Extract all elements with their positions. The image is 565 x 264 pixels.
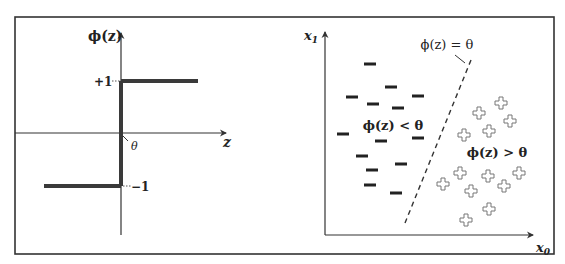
x0-axis-label: x0 (535, 240, 551, 257)
decision-boundary-plot: x1 x0 ϕ(z) = θ ϕ(z) < θ ϕ(z) > θ (303, 28, 551, 257)
theta-pointer (123, 136, 128, 141)
figure-frame (15, 17, 554, 254)
perceptron-diagram: ϕ(z) z θ +1 −1 x1 x0 ϕ(z) = θ ϕ(z) < θ ϕ… (0, 0, 565, 264)
minus-marker (367, 103, 379, 106)
plus-marker (482, 170, 494, 182)
plus-marker (454, 167, 466, 179)
plus-marker (513, 167, 525, 179)
minus-marker (395, 163, 407, 166)
minus-marker (390, 192, 402, 195)
decision-boundary-dashed-line (405, 60, 471, 223)
plus-marker (483, 203, 495, 215)
minus-marker (385, 86, 397, 89)
theta-label: θ (131, 140, 138, 153)
z-axis-label: z (222, 134, 232, 150)
minus-marker (364, 63, 376, 66)
plus-marker (460, 214, 472, 226)
plus-marker (495, 97, 507, 109)
minus-marker (375, 140, 387, 143)
positive-region-label: ϕ(z) > θ (467, 145, 528, 160)
minus-marker (337, 133, 349, 136)
minus-marker (412, 95, 424, 98)
phi-z-axis-label: ϕ(z) (88, 28, 122, 44)
minus-marker (412, 137, 424, 140)
plus-marker (437, 178, 449, 190)
boundary-label-leader-line (455, 55, 465, 63)
minus-one-label: −1 (131, 180, 149, 194)
minus-marker (356, 155, 368, 158)
x1-axis-label: x1 (303, 28, 318, 45)
positive-class-markers (437, 97, 525, 226)
plus-marker (473, 107, 485, 119)
plus-marker (458, 129, 470, 141)
minus-marker (364, 184, 376, 187)
step-function-plot: ϕ(z) z θ +1 −1 (15, 28, 232, 235)
minus-marker (346, 96, 358, 99)
plus-one-label: +1 (94, 75, 112, 89)
boundary-label: ϕ(z) = θ (421, 37, 474, 52)
plus-marker (498, 180, 510, 192)
minus-marker (392, 107, 404, 110)
negative-region-label: ϕ(z) < θ (363, 118, 424, 133)
plus-marker (483, 125, 495, 137)
minus-marker (366, 169, 378, 172)
plus-marker (504, 115, 516, 127)
plus-marker (465, 185, 477, 197)
